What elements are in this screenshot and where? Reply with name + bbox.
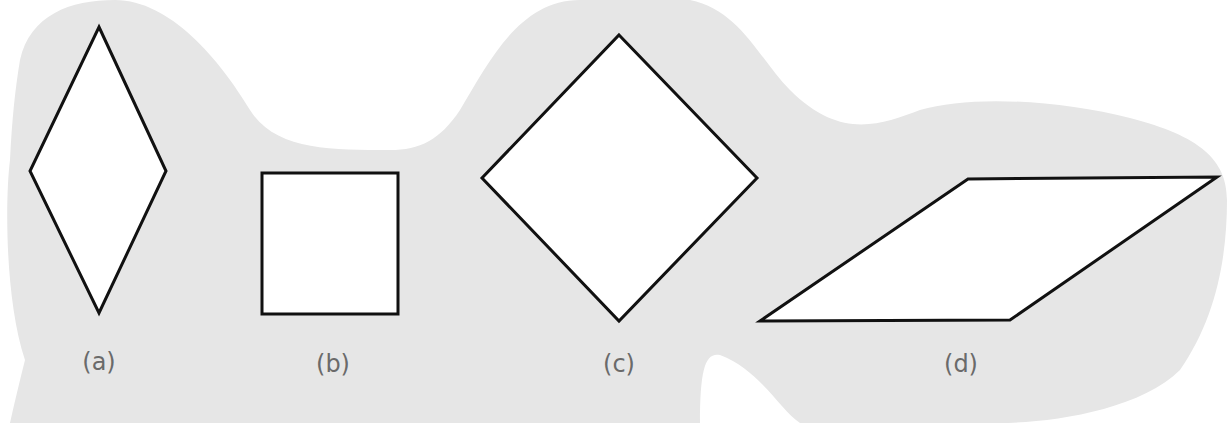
label-d: (d): [944, 350, 978, 378]
shapes-figure: (a) (b) (c) (d): [0, 0, 1227, 423]
label-a: (a): [82, 348, 115, 376]
label-b: (b): [316, 350, 350, 378]
shape-b-square: [262, 173, 398, 314]
label-c: (c): [603, 350, 635, 378]
